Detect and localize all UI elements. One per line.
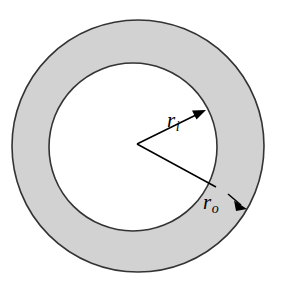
inner-radius-label: ri [167,110,180,134]
outer-radius-label: ro [203,192,219,216]
inner-circle-outline [49,63,217,231]
inner-radius-subscript: i [176,119,180,134]
annulus-drawing [0,0,281,291]
outer-radius-symbol: r [203,190,211,214]
outer-radius-subscript: o [212,201,219,216]
annulus-diagram: ri ro [0,0,281,291]
inner-radius-symbol: r [167,108,175,132]
